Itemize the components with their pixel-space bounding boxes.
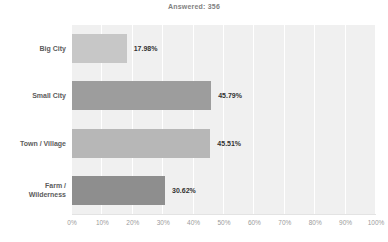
- value-label: 17.98%: [134, 34, 158, 63]
- x-tick-label: 50%: [217, 219, 230, 226]
- survey-chart-frame: Answered: 356 0%10%20%30%40%50%60%70%80%…: [0, 0, 388, 242]
- x-tick-label: 100%: [368, 219, 385, 226]
- x-tick-label: 90%: [339, 219, 352, 226]
- x-tick-label: 40%: [187, 219, 200, 226]
- x-tick-label: 0%: [67, 219, 76, 226]
- value-label: 30.62%: [172, 176, 196, 205]
- category-label: Small City: [6, 72, 66, 119]
- category-label: Big City: [6, 25, 66, 72]
- bar: [72, 176, 165, 205]
- x-tick-label: 30%: [157, 219, 170, 226]
- bar-chart: 0%10%20%30%40%50%60%70%80%90%100%Big Cit…: [0, 0, 388, 242]
- bar: [72, 34, 127, 63]
- x-tick-label: 70%: [278, 219, 291, 226]
- category-label: Town / Village: [6, 120, 66, 167]
- value-label: 45.79%: [218, 81, 242, 110]
- x-tick-label: 60%: [248, 219, 261, 226]
- x-tick-label: 80%: [309, 219, 322, 226]
- category-label: Farm / Wilderness: [6, 167, 66, 214]
- bar: [72, 129, 210, 158]
- x-tick-label: 20%: [126, 219, 139, 226]
- bar: [72, 81, 211, 110]
- value-label: 45.51%: [217, 129, 241, 158]
- x-tick-label: 10%: [96, 219, 109, 226]
